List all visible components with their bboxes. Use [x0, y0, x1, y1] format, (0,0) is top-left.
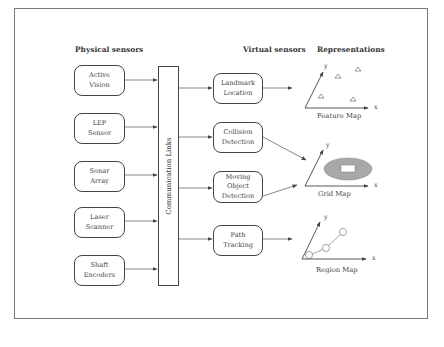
feature-map-y-label: y	[324, 62, 328, 70]
free-cell-icon	[341, 165, 355, 172]
region-map-label: Region Map	[316, 266, 358, 274]
landmark-triangle-icon	[350, 97, 356, 101]
region-map-graphic	[302, 222, 366, 259]
feature-map-label: Feature Map	[317, 112, 361, 120]
grid-map-x-label: x	[374, 181, 378, 189]
landmark-triangle-icon	[335, 74, 341, 78]
region-map-y-label: y	[324, 213, 328, 221]
landmark-triangle-icon	[355, 67, 361, 71]
region-circle-icon	[305, 251, 312, 258]
feature-map-graphic	[305, 67, 368, 108]
grid-map-graphic	[305, 150, 372, 186]
region-map-x-label: x	[372, 254, 376, 262]
grid-map-y-label: y	[326, 141, 330, 149]
grid-map-label: Grid Map	[318, 190, 351, 198]
diagram-connectors	[0, 0, 444, 347]
landmark-triangle-icon	[318, 94, 324, 98]
feature-map-x-label: x	[374, 103, 378, 111]
